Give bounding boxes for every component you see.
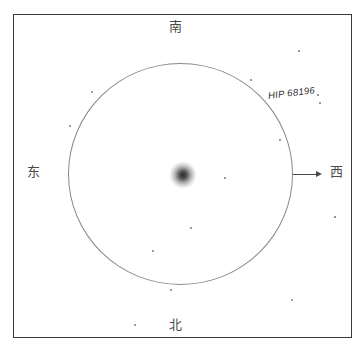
field-star (91, 91, 92, 92)
target-object-marker (170, 162, 196, 188)
field-star (291, 299, 292, 300)
field-star (319, 102, 320, 103)
field-star (334, 216, 336, 218)
field-star (152, 250, 153, 251)
direction-label-west: 西 (330, 165, 343, 178)
field-star (69, 125, 70, 126)
field-star (224, 177, 226, 179)
west-arrow-head-icon (316, 171, 322, 177)
field-star (190, 227, 192, 229)
field-star (170, 289, 171, 290)
direction-label-east: 东 (27, 165, 40, 178)
field-star (298, 50, 300, 52)
finder-chart-root: ▫▫▫ ▫▫▫▫ ▫▫▫ ▫▫ HIP 68196 南 北 东 西 (0, 0, 361, 348)
direction-label-north: 北 (169, 318, 182, 331)
west-arrow-line (293, 174, 318, 175)
direction-label-south: 南 (169, 20, 182, 33)
field-star (134, 324, 135, 325)
field-star (279, 139, 280, 140)
field-star (317, 94, 318, 95)
field-star (250, 79, 251, 80)
clipped-header-text: ▫▫▫ ▫▫▫▫ ▫▫▫ ▫▫ (10, 0, 57, 2)
